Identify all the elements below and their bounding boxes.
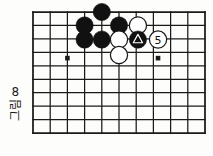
white-stone	[110, 46, 127, 63]
star-point	[65, 56, 70, 61]
stone-black[interactable]	[129, 31, 146, 48]
black-stone	[76, 31, 93, 48]
stone-white[interactable]	[110, 46, 127, 63]
stone-white-5[interactable]: 5	[149, 31, 166, 48]
stone-move-number: 5	[155, 34, 162, 47]
stone-white[interactable]	[110, 31, 127, 48]
stone-black[interactable]	[93, 31, 110, 48]
go-board[interactable]: 5	[0, 0, 213, 156]
white-stone	[110, 31, 127, 48]
stone-black[interactable]	[76, 31, 93, 48]
go-diagram-figure: 5 그림 8	[0, 0, 213, 156]
stone-black[interactable]	[93, 3, 110, 20]
star-point	[156, 56, 161, 61]
black-stone	[129, 31, 146, 48]
black-stone	[93, 31, 110, 48]
black-stone	[93, 3, 110, 20]
